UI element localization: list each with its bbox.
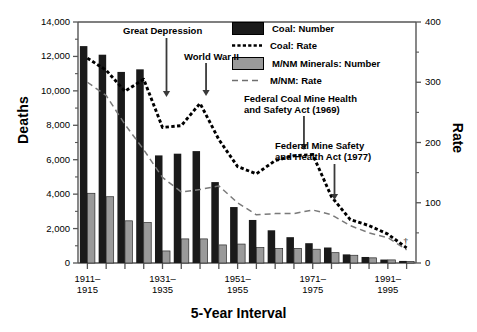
legend-label-coal-rate: Coal: Rate: [270, 40, 317, 51]
annotation-line-1: Federal Mine Safety: [275, 140, 371, 151]
legend-item-mnm-number: M/NM Minerals: Number: [232, 56, 380, 70]
mining-fatalities-chart: † Deaths Rate 5-Year Interval 02,0004,00…: [0, 0, 477, 332]
annotation-line-2: and Health Act (1977): [275, 151, 371, 162]
annotation-line-2: and Safety Act (1969): [244, 104, 357, 115]
bar-mnm-number: [87, 193, 95, 263]
bar-coal-number: [305, 243, 313, 263]
annotation-line-1: Federal Coal Mine Health: [244, 93, 357, 104]
y-tick-label-left: 12,000: [22, 51, 70, 61]
bar-coal-number: [174, 154, 182, 263]
y-tick-label-right: 200: [425, 138, 455, 148]
x-tick-label-line-2: 1955: [216, 284, 260, 295]
bar-mnm-number: [350, 255, 358, 263]
bar-mnm-number: [388, 260, 396, 263]
bar-coal-number: [362, 257, 370, 263]
bar-mnm-number: [332, 253, 340, 263]
bar-coal-number: [399, 261, 407, 263]
x-tick-label-line-1: 1991–: [366, 273, 410, 284]
bar-coal-number: [380, 260, 388, 263]
annotation-federal-mine-safety-health-act: Federal Mine Safety and Health Act (1977…: [275, 140, 371, 162]
x-axis-title: 5-Year Interval: [0, 305, 477, 321]
x-tick-label-line-2: 1995: [366, 284, 410, 295]
x-tick-label-line-2: 1935: [141, 284, 185, 295]
legend-item-coal-rate: Coal: Rate: [232, 39, 380, 53]
y-tick-label-right: 400: [425, 17, 455, 27]
bar-mnm-number: [125, 221, 133, 263]
legend-label-mnm-number: M/NM Minerals: Number: [272, 58, 380, 69]
annotation-federal-coal-mine-health-act: Federal Coal Mine Health and Safety Act …: [244, 93, 357, 115]
bar-coal-number: [249, 220, 257, 263]
x-tick-label-line-2: 1975: [291, 284, 335, 295]
legend-swatch-coal-number: [232, 22, 264, 35]
bar-mnm-number: [294, 248, 302, 263]
x-tick-label: 1911–1915: [65, 273, 109, 295]
arrow-world-war-ii: [202, 63, 209, 96]
chart-legend: Coal: Number Coal: Rate M/NM Minerals: N…: [232, 21, 380, 91]
arrow-federal-mine-safety-health-act: [331, 164, 338, 200]
x-tick-label-line-1: 1951–: [216, 273, 260, 284]
y-tick-label-left: 8,000: [22, 120, 70, 130]
bar-coal-number: [211, 182, 219, 263]
legend-swatch-coal-rate: [232, 40, 262, 51]
bar-coal-number: [230, 207, 238, 263]
legend-swatch-mnm-rate: [232, 75, 262, 86]
y-tick-label-right: 100: [425, 198, 455, 208]
x-tick-label: 1991–1995: [366, 273, 410, 295]
x-tick-label: 1971–1975: [291, 273, 335, 295]
y-tick-label-left: 0: [22, 258, 70, 268]
y-tick-label-left: 2,000: [22, 224, 70, 234]
y-tick-label-left: 14,000: [22, 17, 70, 27]
bar-mnm-number: [163, 251, 171, 263]
bar-mnm-number: [219, 245, 227, 263]
bar-coal-number: [324, 248, 332, 263]
bar-mnm-number: [407, 261, 415, 263]
bar-mnm-number: [238, 244, 246, 263]
bar-mnm-number: [181, 239, 189, 263]
bar-mnm-number: [313, 249, 321, 263]
annotation-world-war-ii: World War II: [184, 51, 239, 62]
legend-item-coal-number: Coal: Number: [232, 21, 380, 35]
legend-label-coal-number: Coal: Number: [272, 23, 334, 34]
y-tick-label-right: 0: [425, 258, 455, 268]
bar-coal-number: [286, 237, 294, 263]
x-tick-label-line-1: 1911–: [65, 273, 109, 284]
bar-coal-number: [99, 55, 107, 263]
bar-coal-number: [80, 46, 88, 263]
bar-mnm-number: [275, 248, 283, 263]
bar-coal-number: [343, 254, 351, 263]
x-tick-label: 1951–1955: [216, 273, 260, 295]
bar-coal-number: [136, 69, 144, 263]
y-tick-label-left: 4,000: [22, 189, 70, 199]
legend-label-mnm-rate: M/NM: Rate: [270, 75, 322, 86]
annotation-great-depression: Great Depression: [123, 25, 202, 36]
y-tick-label-left: 10,000: [22, 86, 70, 96]
bar-coal-number: [117, 72, 125, 263]
bar-mnm-number: [106, 197, 114, 263]
x-tick-label: 1931–1935: [141, 273, 185, 295]
x-tick-label-line-2: 1915: [65, 284, 109, 295]
bar-mnm-number: [369, 258, 377, 263]
x-tick-label-line-1: 1971–: [291, 273, 335, 284]
arrow-great-depression: [163, 38, 170, 97]
y-tick-label-left: 6,000: [22, 155, 70, 165]
legend-item-mnm-rate: M/NM: Rate: [232, 74, 380, 88]
footnote-dagger-marker: †: [404, 236, 409, 246]
y-tick-label-right: 300: [425, 77, 455, 87]
bar-mnm-number: [144, 223, 152, 263]
x-tick-label-line-1: 1931–: [141, 273, 185, 284]
bar-mnm-number: [256, 248, 264, 263]
bar-coal-number: [268, 230, 276, 263]
bar-mnm-number: [200, 239, 208, 263]
bar-coal-number: [193, 151, 201, 263]
